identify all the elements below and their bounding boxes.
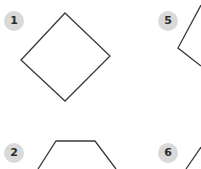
shape-path-2: [38, 141, 116, 169]
panel-badge-1: 1: [4, 11, 24, 31]
panel-badge-2: 2: [4, 143, 24, 163]
panel-badge-6: 6: [158, 143, 178, 163]
shape-path-5: [178, 5, 201, 66]
shape-path-1: [21, 13, 110, 101]
panel-badge-5: 5: [158, 11, 178, 31]
shape-grid-canvas: 1 5 2 6: [0, 0, 201, 169]
shape-path-6: [186, 147, 201, 169]
